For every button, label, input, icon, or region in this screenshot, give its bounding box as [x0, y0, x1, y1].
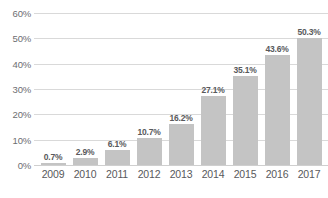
bar [73, 158, 98, 165]
bar-value-label: 2.9% [76, 147, 95, 157]
bar-value-label: 10.7% [137, 127, 160, 137]
bar [105, 150, 130, 165]
bar [41, 163, 66, 165]
y-axis: 0%10%20%30%40%50%60% [0, 0, 34, 198]
bar-group: 50.3% [293, 13, 325, 165]
bar [297, 38, 322, 165]
bar-group: 10.7% [133, 13, 165, 165]
bar [201, 96, 226, 165]
y-axis-tick-label: 20% [13, 109, 31, 120]
bar-value-label: 35.1% [233, 65, 256, 75]
y-axis-tick-label: 40% [13, 58, 31, 69]
bar [137, 138, 162, 165]
gridline [34, 165, 328, 166]
x-axis-tick-label: 2010 [69, 168, 101, 194]
bar [169, 124, 194, 165]
bar-value-label: 43.6% [265, 44, 288, 54]
y-axis-tick-label: 10% [13, 134, 31, 145]
bar-group: 35.1% [229, 13, 261, 165]
x-axis-tick-label: 2016 [261, 168, 293, 194]
y-axis-tick-label: 30% [13, 84, 31, 95]
bar-group: 0.7% [37, 13, 69, 165]
bar-value-label: 6.1% [108, 139, 127, 149]
bar-series: 0.7%2.9%6.1%10.7%16.2%27.1%35.1%43.6%50.… [34, 13, 328, 165]
bar-chart: 0%10%20%30%40%50%60% 0.7%2.9%6.1%10.7%16… [0, 0, 328, 198]
x-axis-tick-label: 2015 [229, 168, 261, 194]
x-axis: 200920102011201220132014201520162017 [34, 168, 328, 194]
bar-value-label: 16.2% [169, 113, 192, 123]
x-axis-tick-label: 2011 [101, 168, 133, 194]
bar-value-label: 27.1% [201, 85, 224, 95]
bar [265, 55, 290, 165]
y-axis-tick-label: 50% [13, 33, 31, 44]
y-axis-tick-label: 60% [13, 8, 31, 19]
bar-group: 16.2% [165, 13, 197, 165]
x-axis-tick-label: 2014 [197, 168, 229, 194]
bar-group: 2.9% [69, 13, 101, 165]
plot-area: 0.7%2.9%6.1%10.7%16.2%27.1%35.1%43.6%50.… [34, 13, 328, 165]
x-axis-tick-label: 2017 [293, 168, 325, 194]
x-axis-tick-label: 2009 [37, 168, 69, 194]
bar-value-label: 50.3% [297, 27, 320, 37]
x-axis-tick-label: 2012 [133, 168, 165, 194]
bar-group: 6.1% [101, 13, 133, 165]
bar-group: 27.1% [197, 13, 229, 165]
bar [233, 76, 258, 165]
x-axis-tick-label: 2013 [165, 168, 197, 194]
bar-value-label: 0.7% [44, 152, 63, 162]
y-axis-tick-label: 0% [18, 160, 31, 171]
bar-group: 43.6% [261, 13, 293, 165]
